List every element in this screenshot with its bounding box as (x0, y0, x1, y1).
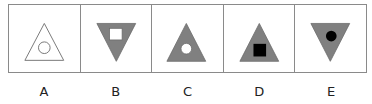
option-panel-e[interactable] (295, 5, 366, 72)
option-label-e: E (295, 84, 367, 99)
option-panel-c[interactable] (152, 5, 224, 72)
option-label-a: A (8, 84, 80, 99)
option-labels: A B C D E (8, 84, 367, 99)
outline-triangle-with-circle-icon (9, 5, 80, 72)
option-panel-d[interactable] (224, 5, 296, 72)
gray-triangle-with-black-square-icon (224, 5, 295, 72)
gray-triangle-with-white-circle-icon (152, 5, 223, 72)
options-strip (8, 4, 367, 73)
option-label-c: C (152, 84, 224, 99)
option-panel-b[interactable] (81, 5, 153, 72)
gray-inverted-triangle-with-black-circle-icon (295, 5, 366, 72)
gray-inverted-triangle-with-white-square-icon (81, 5, 152, 72)
option-label-d: D (223, 84, 295, 99)
option-panel-a[interactable] (9, 5, 81, 72)
option-label-b: B (80, 84, 152, 99)
